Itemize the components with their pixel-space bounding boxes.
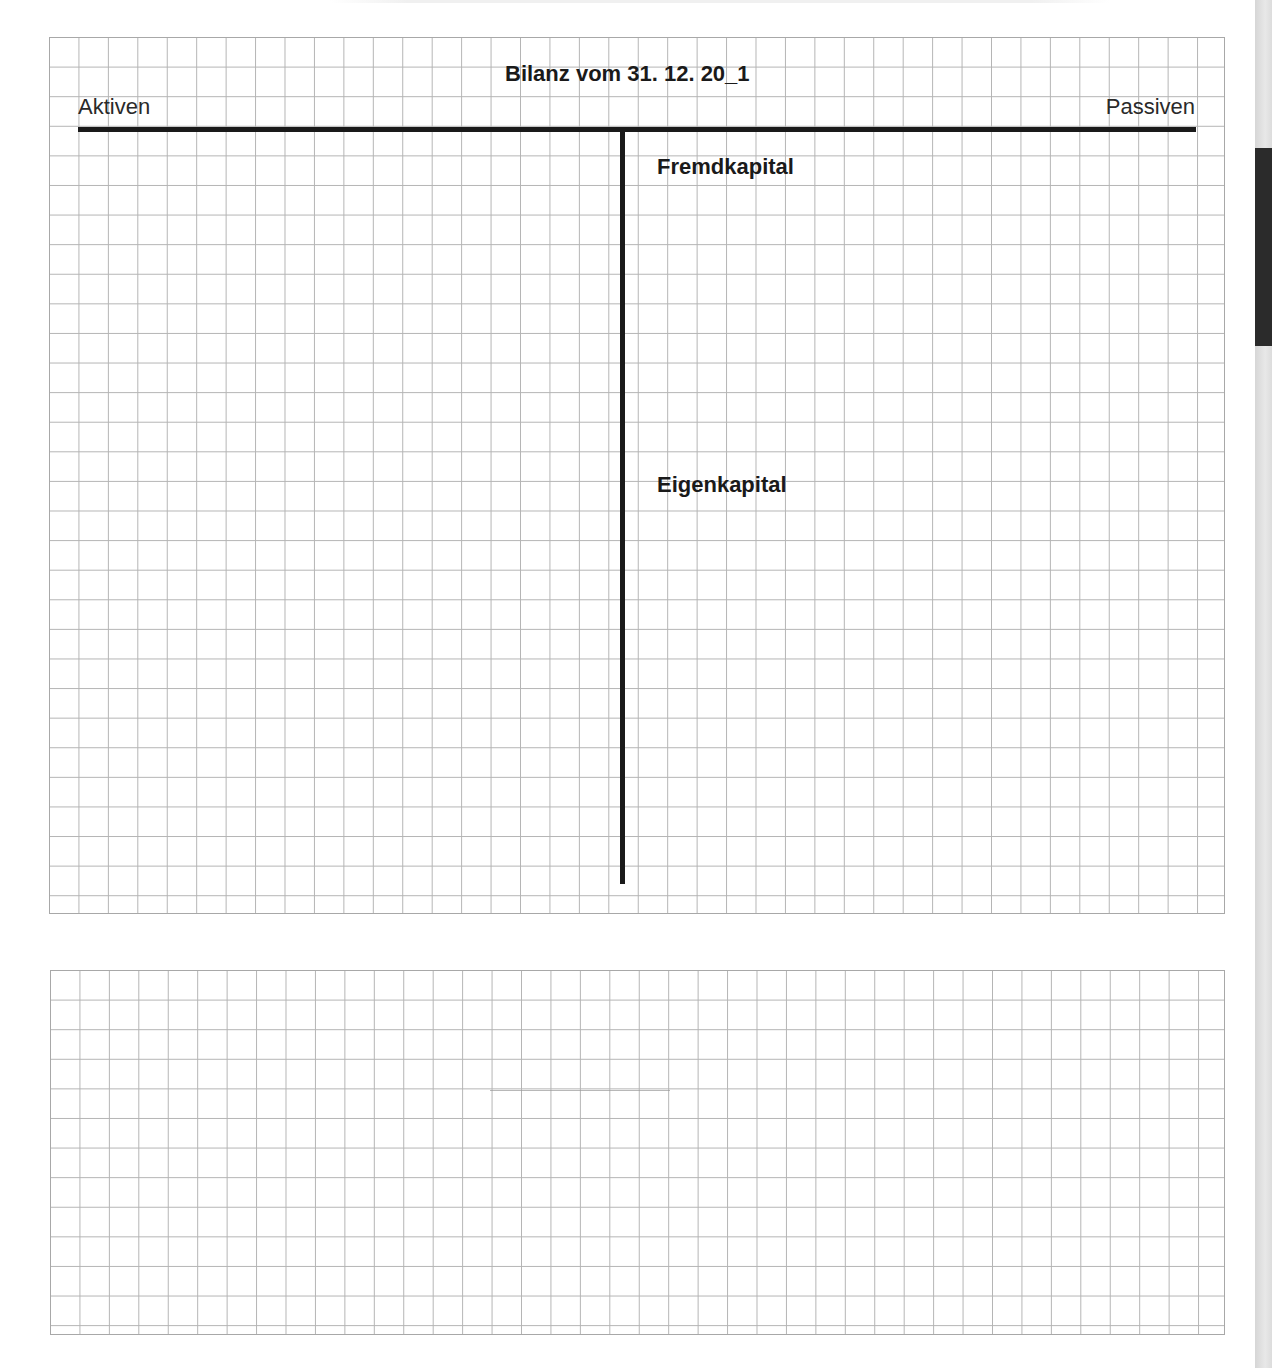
t-account-vertical-rule: [620, 127, 625, 884]
balance-sheet-grid: [49, 37, 1225, 914]
borrowed-capital-heading: Fremdkapital: [657, 154, 794, 180]
notes-grid: [50, 970, 1225, 1335]
faint-pencil-mark: [490, 1090, 670, 1091]
equity-heading: Eigenkapital: [657, 472, 787, 498]
liabilities-equity-label: Passiven: [1106, 94, 1195, 120]
assets-label: Aktiven: [78, 94, 150, 120]
cut-off-header-text: [330, 0, 1110, 3]
balance-sheet-title: Bilanz vom 31. 12. 20_1: [505, 61, 750, 87]
chapter-tab-marker: [1255, 148, 1272, 346]
t-account-horizontal-rule: [78, 127, 1196, 132]
